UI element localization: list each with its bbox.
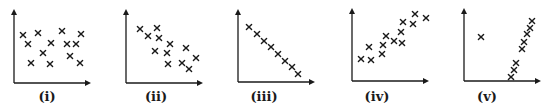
data-point-x-marker — [152, 48, 157, 53]
data-point-x-marker — [399, 40, 404, 45]
data-point-x-marker — [358, 56, 363, 61]
y-axis-arrow-icon — [11, 9, 17, 15]
data-point-x-marker — [295, 71, 300, 76]
x-axis-arrow-icon — [197, 80, 203, 86]
data-point-x-marker — [145, 33, 150, 38]
data-point-x-marker — [412, 11, 417, 16]
data-point-x-marker — [164, 50, 169, 55]
data-point-x-marker — [67, 53, 72, 58]
data-point-x-marker — [48, 40, 53, 45]
data-point-x-marker — [521, 39, 526, 44]
data-point-x-marker — [391, 38, 396, 43]
data-point-x-marker — [513, 60, 518, 65]
data-point-x-marker — [478, 34, 483, 39]
data-point-x-marker — [137, 26, 142, 31]
data-point-x-marker — [254, 31, 259, 36]
y-axis-arrow-icon — [235, 9, 241, 15]
data-point-x-marker — [165, 61, 170, 66]
plot-label-iii: (iii) — [250, 89, 277, 104]
data-point-x-marker — [508, 74, 513, 79]
x-axis-arrow-icon — [535, 78, 541, 84]
data-point-x-marker — [167, 41, 172, 46]
data-point-x-marker — [246, 24, 251, 29]
data-point-x-marker — [423, 15, 428, 20]
data-point-x-marker — [275, 51, 280, 56]
y-axis-arrow-icon — [123, 9, 129, 15]
plot-label-v: (v) — [477, 89, 497, 104]
data-point-x-marker — [289, 64, 294, 69]
x-axis-arrow-icon — [423, 78, 429, 84]
plot-label-ii: (ii) — [145, 89, 167, 104]
data-point-x-marker — [35, 30, 40, 35]
data-point-x-marker — [366, 44, 371, 49]
data-point-x-marker — [47, 61, 52, 66]
data-point-x-marker — [383, 33, 388, 38]
data-point-x-marker — [40, 50, 45, 55]
plot-iv — [349, 8, 429, 84]
data-point-x-marker — [398, 29, 403, 34]
plot-v — [461, 8, 541, 84]
data-point-x-marker — [154, 25, 159, 30]
x-axis-arrow-icon — [309, 79, 315, 85]
data-point-x-marker — [59, 28, 64, 33]
data-point-x-marker — [25, 41, 30, 46]
plot-iii — [235, 9, 315, 85]
plot-i — [11, 9, 91, 86]
data-point-x-marker — [77, 60, 82, 65]
data-point-x-marker — [527, 25, 532, 30]
data-point-x-marker — [529, 18, 534, 23]
data-point-x-marker — [400, 19, 405, 24]
data-point-x-marker — [368, 57, 373, 62]
y-axis-arrow-icon — [349, 8, 355, 14]
data-point-x-marker — [156, 35, 161, 40]
data-point-x-marker — [379, 51, 384, 56]
data-point-x-marker — [519, 46, 524, 51]
plot-label-iv: (iv) — [365, 89, 390, 104]
data-point-x-marker — [186, 66, 191, 71]
plot-ii — [123, 9, 203, 86]
data-point-x-marker — [282, 58, 287, 63]
data-point-x-marker — [193, 55, 198, 60]
data-point-x-marker — [20, 32, 25, 37]
data-point-x-marker — [524, 31, 529, 36]
data-point-x-marker — [183, 45, 188, 50]
data-point-x-marker — [261, 38, 266, 43]
data-point-x-marker — [179, 60, 184, 65]
data-point-x-marker — [380, 42, 385, 47]
y-axis-arrow-icon — [461, 8, 467, 14]
data-point-x-marker — [64, 41, 69, 46]
plot-label-i: (i) — [38, 89, 55, 104]
data-point-x-marker — [511, 67, 516, 72]
data-point-x-marker — [78, 31, 83, 36]
data-point-x-marker — [73, 41, 78, 46]
data-point-x-marker — [268, 44, 273, 49]
data-point-x-marker — [410, 21, 415, 26]
data-point-x-marker — [28, 60, 33, 65]
x-axis-arrow-icon — [85, 80, 91, 86]
